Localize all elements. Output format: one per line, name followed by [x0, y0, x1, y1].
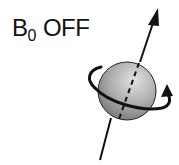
rotation-arrowhead-icon	[161, 84, 173, 97]
magnetic-moment-arrowhead-icon	[148, 8, 159, 26]
spin-axis-upper	[140, 20, 154, 62]
spin-axis-lower	[100, 118, 111, 160]
spin-diagram	[0, 0, 179, 165]
nucleus-sphere-icon	[98, 62, 156, 120]
